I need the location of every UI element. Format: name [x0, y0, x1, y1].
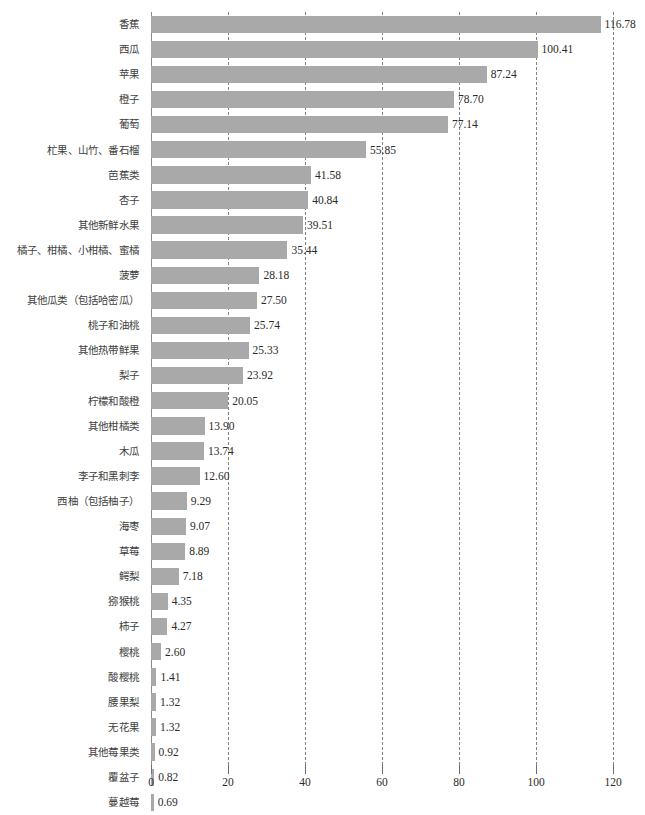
- bar-rows: 116.78100.4187.2478.7077.1455.8541.5840.…: [151, 12, 613, 765]
- x-tick-label: 100: [527, 776, 544, 788]
- bar[interactable]: [151, 342, 249, 359]
- category-label: 苹果: [0, 62, 145, 87]
- category-label: 杏子: [0, 188, 145, 213]
- bar-row[interactable]: 20.05: [151, 389, 613, 414]
- bar-row[interactable]: 1.41: [151, 665, 613, 690]
- bar[interactable]: [151, 41, 538, 58]
- bar[interactable]: [151, 216, 303, 233]
- category-label: 梨子: [0, 363, 145, 388]
- bar-row[interactable]: 9.07: [151, 514, 613, 539]
- category-label: 杧果、山竹、番石榴: [0, 138, 145, 163]
- bar[interactable]: [151, 267, 259, 284]
- x-tick: [382, 765, 384, 774]
- bar-row[interactable]: 1.32: [151, 715, 613, 740]
- x-tick-label: 0: [148, 776, 154, 788]
- bar[interactable]: [151, 643, 161, 660]
- x-tick-label: 60: [376, 776, 388, 788]
- bar-value-label: 8.89: [185, 542, 209, 560]
- bar-value-label: 9.07: [186, 517, 210, 535]
- bar-row[interactable]: 13.90: [151, 414, 613, 439]
- bar-value-label: 0.92: [155, 743, 179, 761]
- bar[interactable]: [151, 568, 179, 585]
- bar-value-label: 100.41: [538, 40, 574, 58]
- bar[interactable]: [151, 367, 243, 384]
- bar[interactable]: [151, 166, 311, 183]
- bar-row[interactable]: 87.24: [151, 62, 613, 87]
- bar-value-label: 12.60: [200, 467, 230, 485]
- bar-row[interactable]: 27.50: [151, 288, 613, 313]
- x-tick: [613, 765, 615, 774]
- category-label: 其他柑橘类: [0, 414, 145, 439]
- bar-value-label: 7.18: [179, 567, 203, 585]
- bar-row[interactable]: 39.51: [151, 213, 613, 238]
- bar[interactable]: [151, 191, 308, 208]
- bar-row[interactable]: 8.89: [151, 539, 613, 564]
- category-label: 葡萄: [0, 112, 145, 137]
- bar-value-label: 13.90: [205, 417, 235, 435]
- bar-row[interactable]: 25.74: [151, 313, 613, 338]
- bar[interactable]: [151, 467, 200, 484]
- bar-value-label: 40.84: [308, 191, 338, 209]
- bar[interactable]: [151, 141, 366, 158]
- bar[interactable]: [151, 241, 287, 258]
- bar-row[interactable]: 1.32: [151, 690, 613, 715]
- category-label: 酸樱桃: [0, 665, 145, 690]
- bar-row[interactable]: 9.29: [151, 489, 613, 514]
- bar-row[interactable]: 23.92: [151, 363, 613, 388]
- category-label: 橙子: [0, 87, 145, 112]
- bar[interactable]: [151, 16, 601, 33]
- bar-row[interactable]: 13.74: [151, 439, 613, 464]
- bar-row[interactable]: 12.60: [151, 464, 613, 489]
- bar-row[interactable]: 116.78: [151, 12, 613, 37]
- gridline-120: [613, 12, 615, 765]
- bar[interactable]: [151, 518, 186, 535]
- bar[interactable]: [151, 593, 168, 610]
- bar-value-label: 78.70: [454, 90, 484, 108]
- bar-row[interactable]: 77.14: [151, 112, 613, 137]
- category-label: 芭蕉类: [0, 163, 145, 188]
- bar-value-label: 1.32: [156, 718, 180, 736]
- bar[interactable]: [151, 317, 250, 334]
- bar-value-label: 0.69: [154, 793, 178, 811]
- bar[interactable]: [151, 618, 167, 635]
- bar-row[interactable]: 0.92: [151, 740, 613, 765]
- x-tick: [459, 765, 461, 774]
- category-label: 木瓜: [0, 439, 145, 464]
- category-label: 其他热带鲜果: [0, 338, 145, 363]
- x-tick-label: 20: [222, 776, 234, 788]
- bar-row[interactable]: 100.41: [151, 37, 613, 62]
- bar-value-label: 55.85: [366, 141, 396, 159]
- bar[interactable]: [151, 392, 228, 409]
- bar-row[interactable]: 35.44: [151, 238, 613, 263]
- bar[interactable]: [151, 543, 185, 560]
- bar-value-label: 2.60: [161, 643, 185, 661]
- category-label: 樱桃: [0, 640, 145, 665]
- category-label: 橘子、柑橘、小柑橘、蜜橘: [0, 238, 145, 263]
- category-label: 草莓: [0, 539, 145, 564]
- bar-row[interactable]: 41.58: [151, 163, 613, 188]
- x-tick: [228, 765, 230, 774]
- bar-row[interactable]: 2.60: [151, 640, 613, 665]
- bar[interactable]: [151, 66, 487, 83]
- bar-value-label: 39.51: [303, 216, 333, 234]
- bar[interactable]: [151, 492, 187, 509]
- bar[interactable]: [151, 91, 454, 108]
- category-label: 海枣: [0, 514, 145, 539]
- bar-value-label: 116.78: [601, 15, 636, 33]
- bar-row[interactable]: 40.84: [151, 188, 613, 213]
- bar[interactable]: [151, 442, 204, 459]
- x-tick: [305, 765, 307, 774]
- bar-row[interactable]: 4.27: [151, 614, 613, 639]
- bar-row[interactable]: 78.70: [151, 87, 613, 112]
- x-tick-label: 40: [299, 776, 311, 788]
- bar[interactable]: [151, 116, 448, 133]
- bar[interactable]: [151, 417, 205, 434]
- bar-row[interactable]: 7.18: [151, 564, 613, 589]
- bar-row[interactable]: 28.18: [151, 263, 613, 288]
- bar-row[interactable]: 55.85: [151, 138, 613, 163]
- bar-row[interactable]: 25.33: [151, 338, 613, 363]
- bar[interactable]: [151, 292, 257, 309]
- category-label: 菠萝: [0, 263, 145, 288]
- category-label: 桃子和油桃: [0, 313, 145, 338]
- bar-row[interactable]: 4.35: [151, 589, 613, 614]
